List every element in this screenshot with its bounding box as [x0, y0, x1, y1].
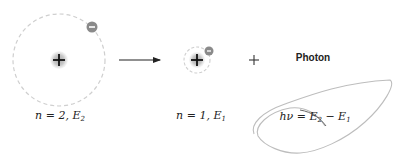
- photon-energy-equation: hν = E2 − E1: [279, 110, 350, 124]
- final-atom: [184, 47, 214, 74]
- photon-label: Photon: [296, 52, 330, 63]
- initial-state-label: n = 2, E2: [35, 109, 85, 123]
- initial-atom: [13, 14, 105, 106]
- final-state-label: n = 1, E1: [176, 109, 226, 123]
- diagram-canvas: [0, 0, 402, 165]
- plus-operator-icon: [249, 55, 259, 65]
